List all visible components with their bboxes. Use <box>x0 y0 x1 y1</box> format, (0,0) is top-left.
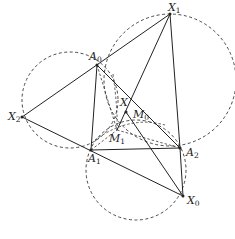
solid-lines <box>22 14 183 196</box>
label-x: X <box>119 96 129 109</box>
circle-x2 <box>22 52 118 148</box>
dashed-circles <box>22 14 235 220</box>
label-m1: M1 <box>108 132 125 146</box>
circle-x1 <box>104 14 235 146</box>
diagram-canvas: X1 A0 X2 A1 A2 X0 X M0 M1 <box>0 0 235 239</box>
label-a0: A0 <box>88 50 102 64</box>
label-x2: X2 <box>7 110 21 124</box>
circle-x0 <box>86 120 186 220</box>
geometry-diagram: X1 A0 X2 A1 A2 X0 X M0 M1 <box>0 0 235 239</box>
label-a2: A2 <box>185 146 199 160</box>
label-x0: X0 <box>186 194 200 208</box>
label-m0: M0 <box>132 108 149 122</box>
label-x1: X1 <box>167 1 181 15</box>
points <box>21 13 185 198</box>
